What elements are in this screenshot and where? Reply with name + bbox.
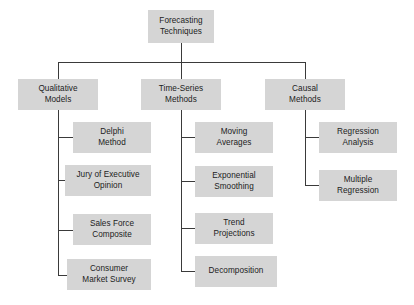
node-consumer-market-survey-line2: Market Survey xyxy=(82,275,135,285)
connector-bus-horizontal xyxy=(58,62,306,63)
forecasting-techniques-diagram: Forecasting Techniques Qualitative Model… xyxy=(0,0,414,305)
node-trend-projections[interactable]: Trend Projections xyxy=(195,213,273,244)
node-sales-force-composite[interactable]: Sales Force Composite xyxy=(73,214,151,245)
node-regression-analysis-line2: Analysis xyxy=(343,138,374,148)
node-multiple-regression-line1: Multiple xyxy=(344,175,373,185)
node-delphi-method[interactable]: Delphi Method xyxy=(73,122,151,153)
node-jury-of-executive-opinion-line1: Jury of Executive xyxy=(76,170,139,180)
stub-qualitative-3 xyxy=(58,230,73,231)
node-jury-of-executive-opinion-line2: Opinion xyxy=(94,181,123,191)
node-moving-averages-line2: Averages xyxy=(217,138,252,148)
stub-time-series-3 xyxy=(181,228,196,229)
node-branch-causal[interactable]: Causal Methods xyxy=(265,79,345,110)
spine-time-series xyxy=(181,110,182,272)
node-root-line2: Techniques xyxy=(160,27,202,37)
connector-bus-drop-time-series xyxy=(181,62,182,79)
node-sales-force-composite-line2: Composite xyxy=(92,230,132,240)
node-regression-analysis[interactable]: Regression Analysis xyxy=(319,122,397,153)
node-multiple-regression[interactable]: Multiple Regression xyxy=(319,170,397,201)
stub-causal-2 xyxy=(305,185,320,186)
connector-bus-drop-qualitative xyxy=(58,62,59,79)
stub-time-series-1 xyxy=(181,137,196,138)
node-moving-averages[interactable]: Moving Averages xyxy=(195,122,273,153)
node-exponential-smoothing[interactable]: Exponential Smoothing xyxy=(195,166,273,197)
stub-time-series-2 xyxy=(181,181,196,182)
stub-qualitative-2 xyxy=(58,180,65,181)
node-delphi-method-line1: Delphi xyxy=(100,127,124,137)
node-branch-qualitative[interactable]: Qualitative Models xyxy=(18,79,98,110)
node-branch-time-series[interactable]: Time-Series Methods xyxy=(141,79,221,110)
stub-causal-1 xyxy=(305,137,320,138)
node-decomposition[interactable]: Decomposition xyxy=(195,256,277,287)
node-root-line1: Forecasting xyxy=(159,16,202,26)
connector-root-drop xyxy=(181,43,182,63)
node-sales-force-composite-line1: Sales Force xyxy=(90,219,134,229)
stub-qualitative-4 xyxy=(58,275,67,276)
node-multiple-regression-line2: Regression xyxy=(337,186,379,196)
node-root-forecasting-techniques[interactable]: Forecasting Techniques xyxy=(148,10,214,43)
node-exponential-smoothing-line2: Smoothing xyxy=(214,182,254,192)
spine-causal xyxy=(305,110,306,186)
node-consumer-market-survey[interactable]: Consumer Market Survey xyxy=(67,259,151,290)
node-trend-projections-line1: Trend xyxy=(223,218,244,228)
node-moving-averages-line1: Moving xyxy=(221,127,248,137)
node-branch-causal-line2: Methods xyxy=(289,95,321,105)
stub-time-series-4 xyxy=(181,271,196,272)
node-regression-analysis-line1: Regression xyxy=(337,127,379,137)
node-trend-projections-line2: Projections xyxy=(213,229,254,239)
node-consumer-market-survey-line1: Consumer xyxy=(90,264,128,274)
node-decomposition-line1: Decomposition xyxy=(209,266,264,276)
node-branch-qualitative-line1: Qualitative xyxy=(38,84,77,94)
spine-qualitative xyxy=(58,110,59,276)
stub-qualitative-1 xyxy=(58,137,73,138)
node-branch-qualitative-line2: Models xyxy=(45,95,72,105)
node-exponential-smoothing-line1: Exponential xyxy=(212,171,255,181)
node-branch-time-series-line1: Time-Series xyxy=(159,84,203,94)
connector-bus-drop-causal xyxy=(305,62,306,79)
node-delphi-method-line2: Method xyxy=(98,138,126,148)
node-branch-causal-line1: Causal xyxy=(292,84,318,94)
node-jury-of-executive-opinion[interactable]: Jury of Executive Opinion xyxy=(65,165,151,196)
node-branch-time-series-line2: Methods xyxy=(165,95,197,105)
